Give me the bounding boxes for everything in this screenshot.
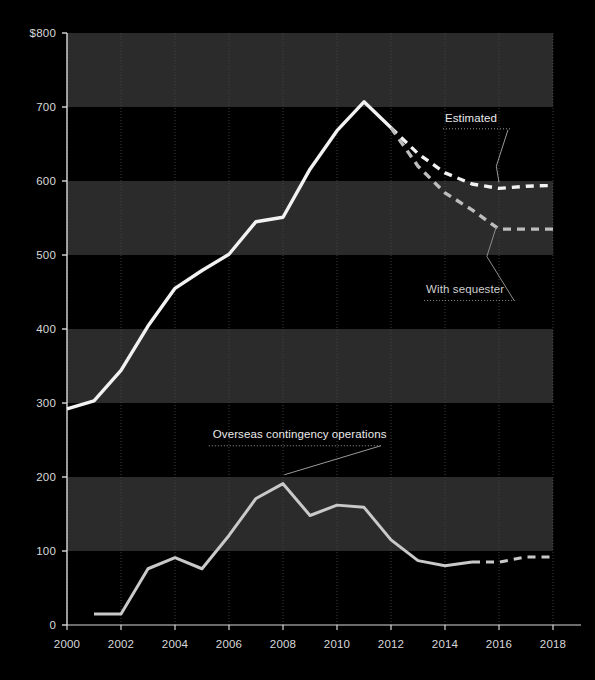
x-tick-label: 2014 — [432, 638, 459, 650]
x-tick-label: 2000 — [54, 638, 80, 650]
x-tick-label: 2010 — [324, 638, 350, 650]
x-tick-label: 2002 — [108, 638, 134, 650]
x-tick-label: 2012 — [378, 638, 404, 650]
y-tick-label: 100 — [36, 545, 56, 557]
background-band — [67, 33, 553, 107]
x-tick-label: 2018 — [540, 638, 566, 650]
annotation-label-with-sequester: With sequester — [426, 283, 504, 295]
x-tick-label: 2008 — [270, 638, 296, 650]
y-tick-label: 300 — [36, 397, 56, 409]
background-band — [67, 181, 553, 255]
x-tick-label: 2016 — [486, 638, 512, 650]
y-tick-label: 700 — [36, 101, 56, 113]
chart-screenshot: 0100200300400500600700$80020002002200420… — [0, 0, 595, 680]
y-tick-label: 0 — [49, 619, 56, 631]
y-tick-label: $800 — [30, 27, 56, 39]
annotation-label-estimated: Estimated — [445, 112, 497, 124]
x-tick-label: 2004 — [162, 638, 189, 650]
annotation-label-oco: Overseas contingency operations — [213, 428, 387, 440]
y-tick-label: 600 — [36, 175, 56, 187]
x-tick-label: 2006 — [216, 638, 242, 650]
y-tick-label: 200 — [36, 471, 56, 483]
y-tick-label: 400 — [36, 323, 56, 335]
chart-canvas: 0100200300400500600700$80020002002200420… — [0, 0, 595, 680]
y-tick-label: 500 — [36, 249, 56, 261]
background-band — [67, 403, 553, 477]
background-band — [67, 551, 553, 625]
line-chart: 0100200300400500600700$80020002002200420… — [0, 0, 595, 680]
